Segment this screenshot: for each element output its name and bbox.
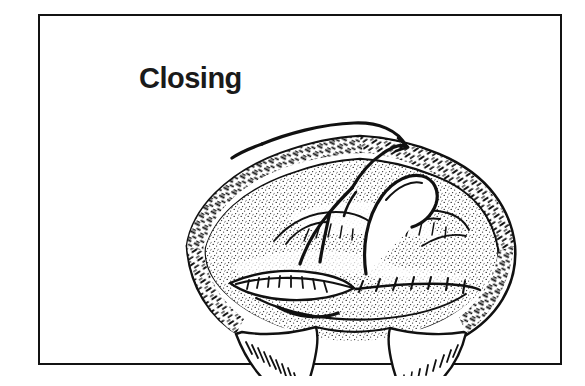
illustration-border: Closing (38, 14, 562, 365)
page-title: Closing (139, 64, 242, 93)
page-root: Closing (0, 0, 585, 386)
surgical-wound-closure-diagram (170, 96, 530, 376)
